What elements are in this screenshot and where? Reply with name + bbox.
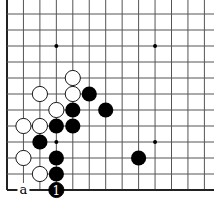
black-stone <box>49 166 64 181</box>
white-stone <box>49 102 64 117</box>
move-number-label: 1 <box>53 184 61 198</box>
star-point-icon <box>54 44 58 48</box>
black-stone <box>65 102 80 117</box>
white-stone <box>65 86 80 101</box>
black-stone <box>49 118 64 133</box>
star-point-icon <box>54 140 58 144</box>
white-stone <box>32 118 47 133</box>
white-stone <box>32 166 47 181</box>
go-board: 1 a <box>0 0 218 202</box>
stones: 1 <box>16 70 146 197</box>
black-stone <box>65 118 80 133</box>
black-stone <box>82 86 97 101</box>
black-stone <box>49 150 64 165</box>
black-stone <box>131 150 146 165</box>
white-stone <box>32 86 47 101</box>
white-stone <box>16 118 31 133</box>
star-point-icon <box>153 140 157 144</box>
white-stone <box>65 70 80 85</box>
star-point-icon <box>153 44 157 48</box>
black-stone <box>98 102 113 117</box>
black-stone <box>32 134 47 149</box>
point-labels: a <box>17 182 29 197</box>
white-stone <box>16 150 31 165</box>
point-label: a <box>20 182 28 197</box>
